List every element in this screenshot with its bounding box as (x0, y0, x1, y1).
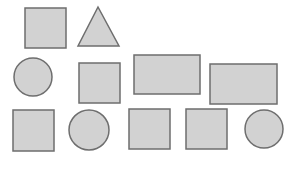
triangle-1-shape (78, 7, 119, 46)
rectangle-1-shape (134, 55, 200, 94)
circle-2-shape (69, 110, 109, 150)
shapes-diagram (0, 0, 293, 170)
square-3-shape (13, 110, 54, 151)
square-5-shape (186, 109, 227, 149)
square-4-shape (129, 109, 170, 149)
circle-3-shape (245, 110, 283, 148)
circle-1-shape (14, 58, 52, 96)
square-2-shape (79, 63, 120, 103)
rectangle-2-shape (210, 64, 277, 104)
square-1-shape (25, 8, 66, 48)
